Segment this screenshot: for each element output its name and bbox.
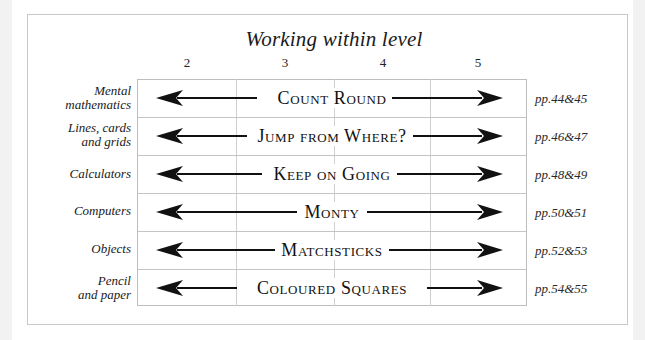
category-line: mathematics <box>30 98 131 112</box>
activity-link[interactable]: Count Round <box>272 88 393 108</box>
activity-row-coloured-squares: Coloured Squares <box>137 269 527 307</box>
page-reference[interactable]: pp.54&55 <box>535 281 615 297</box>
level-3-label: 3 <box>275 55 295 71</box>
page-reference[interactable]: pp.52&53 <box>535 243 615 259</box>
activity-row-count-round: Count Round <box>137 79 527 117</box>
activity-row-monty: Monty <box>137 193 527 231</box>
page-reference[interactable]: pp.50&51 <box>535 205 615 221</box>
category-line: and grids <box>30 135 131 149</box>
activity-row-jump-from-where: Jump from Where? <box>137 117 527 155</box>
row-category-computers: Computers <box>30 204 131 218</box>
category-line: Calculators <box>30 167 131 181</box>
level-2-label: 2 <box>177 55 197 71</box>
activity-link[interactable]: Coloured Squares <box>251 278 413 298</box>
category-line: Pencil <box>30 274 131 288</box>
page-reference[interactable]: pp.44&45 <box>535 91 615 107</box>
row-category-mental-mathematics: Mental mathematics <box>30 84 131 112</box>
level-4-label: 4 <box>373 55 393 71</box>
activity-link[interactable]: Matchsticks <box>275 240 388 260</box>
activity-link[interactable]: Jump from Where? <box>251 126 412 146</box>
page-reference[interactable]: pp.48&49 <box>535 167 615 183</box>
row-category-lines-cards-grids: Lines, cards and grids <box>30 121 131 149</box>
category-line: Mental <box>30 84 131 98</box>
page-reference[interactable]: pp.46&47 <box>535 129 615 145</box>
level-5-label: 5 <box>468 55 488 71</box>
activity-link[interactable]: Keep on Going <box>267 164 396 184</box>
category-line: Objects <box>30 242 131 256</box>
activity-link[interactable]: Monty <box>298 202 365 222</box>
activity-row-matchsticks: Matchsticks <box>137 231 527 269</box>
row-category-pencil-and-paper: Pencil and paper <box>30 274 131 302</box>
category-line: Computers <box>30 204 131 218</box>
row-category-objects: Objects <box>30 242 131 256</box>
row-category-calculators: Calculators <box>30 167 131 181</box>
category-line: and paper <box>30 288 131 302</box>
category-line: Lines, cards <box>30 121 131 135</box>
diagram-title: Working within level <box>0 27 645 52</box>
activity-row-keep-on-going: Keep on Going <box>137 155 527 193</box>
